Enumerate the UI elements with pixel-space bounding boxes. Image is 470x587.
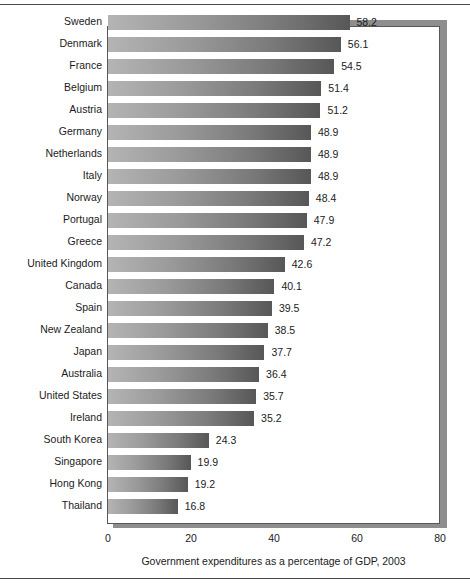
- bar-value-label: 56.1: [348, 38, 368, 51]
- x-tick-label: 40: [268, 532, 280, 545]
- bar: [108, 345, 264, 360]
- bar-track: 16.8: [108, 496, 470, 518]
- x-tick-label: 80: [434, 532, 446, 545]
- bar-track: 36.4: [108, 364, 470, 386]
- bar-row: Italy48.9: [0, 166, 470, 188]
- bar-value-label: 24.3: [216, 434, 236, 447]
- bar-value-label: 54.5: [341, 60, 361, 73]
- bar-track: 35.2: [108, 408, 470, 430]
- bar-category-label: Belgium: [0, 81, 102, 94]
- bar-row: Japan37.7: [0, 342, 470, 364]
- bar: [108, 169, 311, 184]
- bar-category-label: Australia: [0, 367, 102, 380]
- bar: [108, 59, 334, 74]
- bar-row: Belgium51.4: [0, 78, 470, 100]
- bar-row: Austria51.2: [0, 100, 470, 122]
- bar-row: United Kingdom42.6: [0, 254, 470, 276]
- bar-category-label: Singapore: [0, 455, 102, 468]
- bar-track: 47.9: [108, 210, 470, 232]
- bar-track: 58.2: [108, 12, 470, 34]
- bar-track: 51.2: [108, 100, 470, 122]
- x-axis-title: Government expenditures as a percentage …: [107, 554, 440, 568]
- bar-category-label: Netherlands: [0, 147, 102, 160]
- bar-row: Germany48.9: [0, 122, 470, 144]
- bar-track: 48.4: [108, 188, 470, 210]
- bar-value-label: 40.1: [281, 280, 301, 293]
- bar-category-label: Norway: [0, 191, 102, 204]
- bar-row: Netherlands48.9: [0, 144, 470, 166]
- bar-value-label: 48.9: [318, 148, 338, 161]
- bar-rows: Sweden58.2Denmark56.1France54.5Belgium51…: [0, 12, 470, 518]
- bar-row: South Korea24.3: [0, 430, 470, 452]
- bar-value-label: 51.2: [327, 104, 347, 117]
- bar-value-label: 16.8: [185, 500, 205, 513]
- bar-category-label: Canada: [0, 279, 102, 292]
- bar-track: 37.7: [108, 342, 470, 364]
- bar: [108, 81, 321, 96]
- bar-row: Sweden58.2: [0, 12, 470, 34]
- x-axis: Government expenditures as a percentage …: [0, 524, 470, 564]
- bar: [108, 367, 259, 382]
- bar: [108, 477, 188, 492]
- bar: [108, 455, 191, 470]
- bar: [108, 257, 285, 272]
- bar-row: New Zealand38.5: [0, 320, 470, 342]
- bar-track: 47.2: [108, 232, 470, 254]
- bar-category-label: Ireland: [0, 411, 102, 424]
- bar: [108, 235, 304, 250]
- bar-category-label: Germany: [0, 125, 102, 138]
- bar: [108, 37, 341, 52]
- bar-category-label: Greece: [0, 235, 102, 248]
- bar-value-label: 39.5: [279, 302, 299, 315]
- bar-row: Norway48.4: [0, 188, 470, 210]
- bar-value-label: 48.9: [318, 126, 338, 139]
- bar-category-label: New Zealand: [0, 323, 102, 336]
- bar: [108, 213, 307, 228]
- bar-value-label: 51.4: [328, 82, 348, 95]
- bar-value-label: 38.5: [275, 324, 295, 337]
- bar-value-label: 48.9: [318, 170, 338, 183]
- bar-value-label: 19.2: [195, 478, 215, 491]
- bar-track: 54.5: [108, 56, 470, 78]
- bar-category-label: Denmark: [0, 37, 102, 50]
- bar-row: Hong Kong19.2: [0, 474, 470, 496]
- x-tick-label: 60: [351, 532, 363, 545]
- bar-category-label: Portugal: [0, 213, 102, 226]
- bar: [108, 411, 254, 426]
- bar-track: 40.1: [108, 276, 470, 298]
- bar-track: 56.1: [108, 34, 470, 56]
- bar-row: United States35.7: [0, 386, 470, 408]
- bar-category-label: Italy: [0, 169, 102, 182]
- bar-track: 19.2: [108, 474, 470, 496]
- bar-track: 42.6: [108, 254, 470, 276]
- bar-value-label: 35.7: [263, 390, 283, 403]
- bar: [108, 15, 350, 30]
- bar-value-label: 35.2: [261, 412, 281, 425]
- bar: [108, 147, 311, 162]
- bar-row: Denmark56.1: [0, 34, 470, 56]
- bar-category-label: Spain: [0, 301, 102, 314]
- bar-row: Spain39.5: [0, 298, 470, 320]
- bar-category-label: South Korea: [0, 433, 102, 446]
- bar-value-label: 48.4: [316, 192, 336, 205]
- bar: [108, 301, 272, 316]
- bar-value-label: 47.9: [314, 214, 334, 227]
- bar-track: 38.5: [108, 320, 470, 342]
- bar-value-label: 42.6: [292, 258, 312, 271]
- bar-row: Ireland35.2: [0, 408, 470, 430]
- bar-track: 48.9: [108, 122, 470, 144]
- bar-track: 19.9: [108, 452, 470, 474]
- bar-chart-figure: Sweden58.2Denmark56.1France54.5Belgium51…: [0, 0, 470, 587]
- bar: [108, 323, 268, 338]
- bar-row: Australia36.4: [0, 364, 470, 386]
- bar-value-label: 47.2: [311, 236, 331, 249]
- bar: [108, 499, 178, 514]
- bar-track: 24.3: [108, 430, 470, 452]
- bar-track: 48.9: [108, 166, 470, 188]
- bar-row: Singapore19.9: [0, 452, 470, 474]
- bar-category-label: Sweden: [0, 15, 102, 28]
- bar: [108, 279, 274, 294]
- bar-track: 39.5: [108, 298, 470, 320]
- bar-category-label: France: [0, 59, 102, 72]
- bar-category-label: Hong Kong: [0, 477, 102, 490]
